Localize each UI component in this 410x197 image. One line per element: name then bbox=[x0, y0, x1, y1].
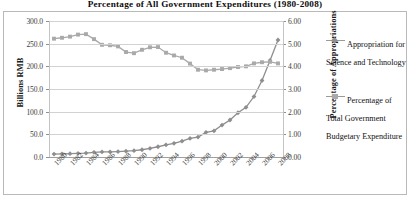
diamond-line-marker-icon bbox=[326, 37, 345, 44]
series-marker bbox=[132, 51, 136, 55]
series-marker bbox=[172, 141, 177, 146]
series-marker bbox=[156, 144, 161, 149]
series-marker bbox=[260, 78, 265, 83]
series-marker bbox=[260, 60, 264, 64]
square-line-marker-icon bbox=[326, 93, 345, 100]
series-marker bbox=[220, 67, 224, 71]
legend-item-percentage: Percentage of Total Government Budgetary… bbox=[326, 89, 408, 143]
series-marker bbox=[188, 62, 192, 66]
series-marker bbox=[116, 149, 121, 154]
series-marker bbox=[276, 61, 280, 65]
y2-axis-tick-label: 1.00 bbox=[288, 130, 318, 139]
series-marker bbox=[148, 45, 152, 49]
y2-axis-tick-label: 2.00 bbox=[288, 108, 318, 117]
y-axis-tick-label: 250.0 bbox=[9, 40, 43, 49]
y-axis-tick-label: 50.0 bbox=[9, 130, 43, 139]
series-marker bbox=[172, 54, 176, 58]
series-marker bbox=[84, 151, 89, 156]
series-marker bbox=[164, 51, 168, 55]
chart-legend: Appropriation for Science and Technology… bbox=[326, 33, 408, 155]
y-axis-tick-label: 100.0 bbox=[9, 108, 43, 117]
series-marker bbox=[100, 149, 105, 154]
series-marker bbox=[156, 45, 160, 49]
series-marker bbox=[188, 136, 193, 141]
chart-figure: Percentage of All Government Expenditure… bbox=[0, 0, 410, 197]
y-axis-tick-label: 300.0 bbox=[9, 17, 43, 26]
series-marker bbox=[164, 142, 169, 147]
series-marker bbox=[116, 44, 120, 48]
y-axis-tick-label: 200.0 bbox=[9, 62, 43, 71]
legend-label: Appropriation for Science and Technology bbox=[326, 40, 406, 67]
series-marker bbox=[84, 32, 88, 36]
series-marker bbox=[148, 146, 153, 151]
series-marker bbox=[68, 35, 72, 39]
series-marker bbox=[92, 37, 96, 41]
series-marker bbox=[252, 61, 256, 65]
series-marker bbox=[140, 48, 144, 52]
y2-axis-tick-label: 5.00 bbox=[288, 40, 318, 49]
series-marker bbox=[76, 33, 80, 37]
series-marker bbox=[268, 60, 272, 64]
series-line bbox=[54, 40, 278, 154]
series-marker bbox=[196, 68, 200, 72]
y-axis-title: Billions RMB bbox=[16, 35, 25, 131]
series-marker bbox=[212, 68, 216, 72]
series-marker bbox=[204, 68, 208, 72]
series-marker bbox=[132, 148, 137, 153]
x-axis-tick-labels: 1980198219841986198819901992199419961998… bbox=[0, 159, 410, 197]
legend-label: Percentage of Total Government Budgetary… bbox=[326, 96, 402, 141]
series-marker bbox=[124, 50, 128, 54]
series-marker bbox=[180, 139, 185, 144]
plot-area bbox=[49, 21, 283, 157]
chart-title: Percentage of All Government Expenditure… bbox=[0, 0, 410, 9]
y2-axis-tick-label: 3.00 bbox=[288, 85, 318, 94]
series-marker bbox=[60, 36, 64, 40]
legend-item-appropriation: Appropriation for Science and Technology bbox=[326, 33, 408, 69]
series-marker bbox=[276, 38, 281, 43]
series-marker bbox=[52, 37, 56, 41]
y2-axis-tick-label: 4.00 bbox=[288, 62, 318, 71]
y2-axis-tick-label: 6.00 bbox=[288, 17, 318, 26]
series-marker bbox=[180, 56, 184, 60]
y-axis-tick-label: 150.0 bbox=[9, 85, 43, 94]
